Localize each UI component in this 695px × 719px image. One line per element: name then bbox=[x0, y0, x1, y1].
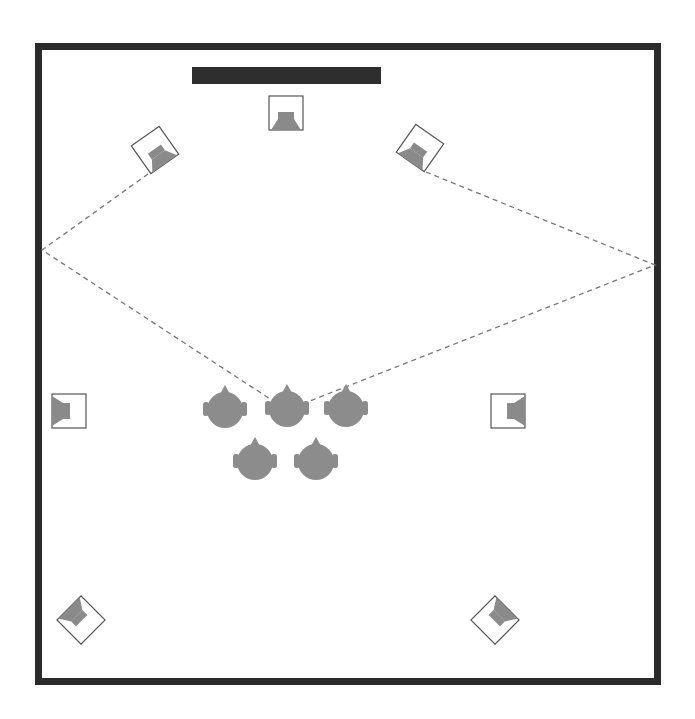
speaker-side-left-icon bbox=[52, 394, 86, 428]
speaker-center-icon bbox=[269, 96, 303, 130]
projection-screen bbox=[192, 67, 381, 84]
screen-bar bbox=[192, 67, 381, 84]
speaker-side-right-icon bbox=[491, 394, 525, 428]
room-layout-diagram bbox=[0, 0, 695, 719]
room-wall bbox=[39, 47, 658, 682]
room-walls bbox=[39, 47, 658, 682]
